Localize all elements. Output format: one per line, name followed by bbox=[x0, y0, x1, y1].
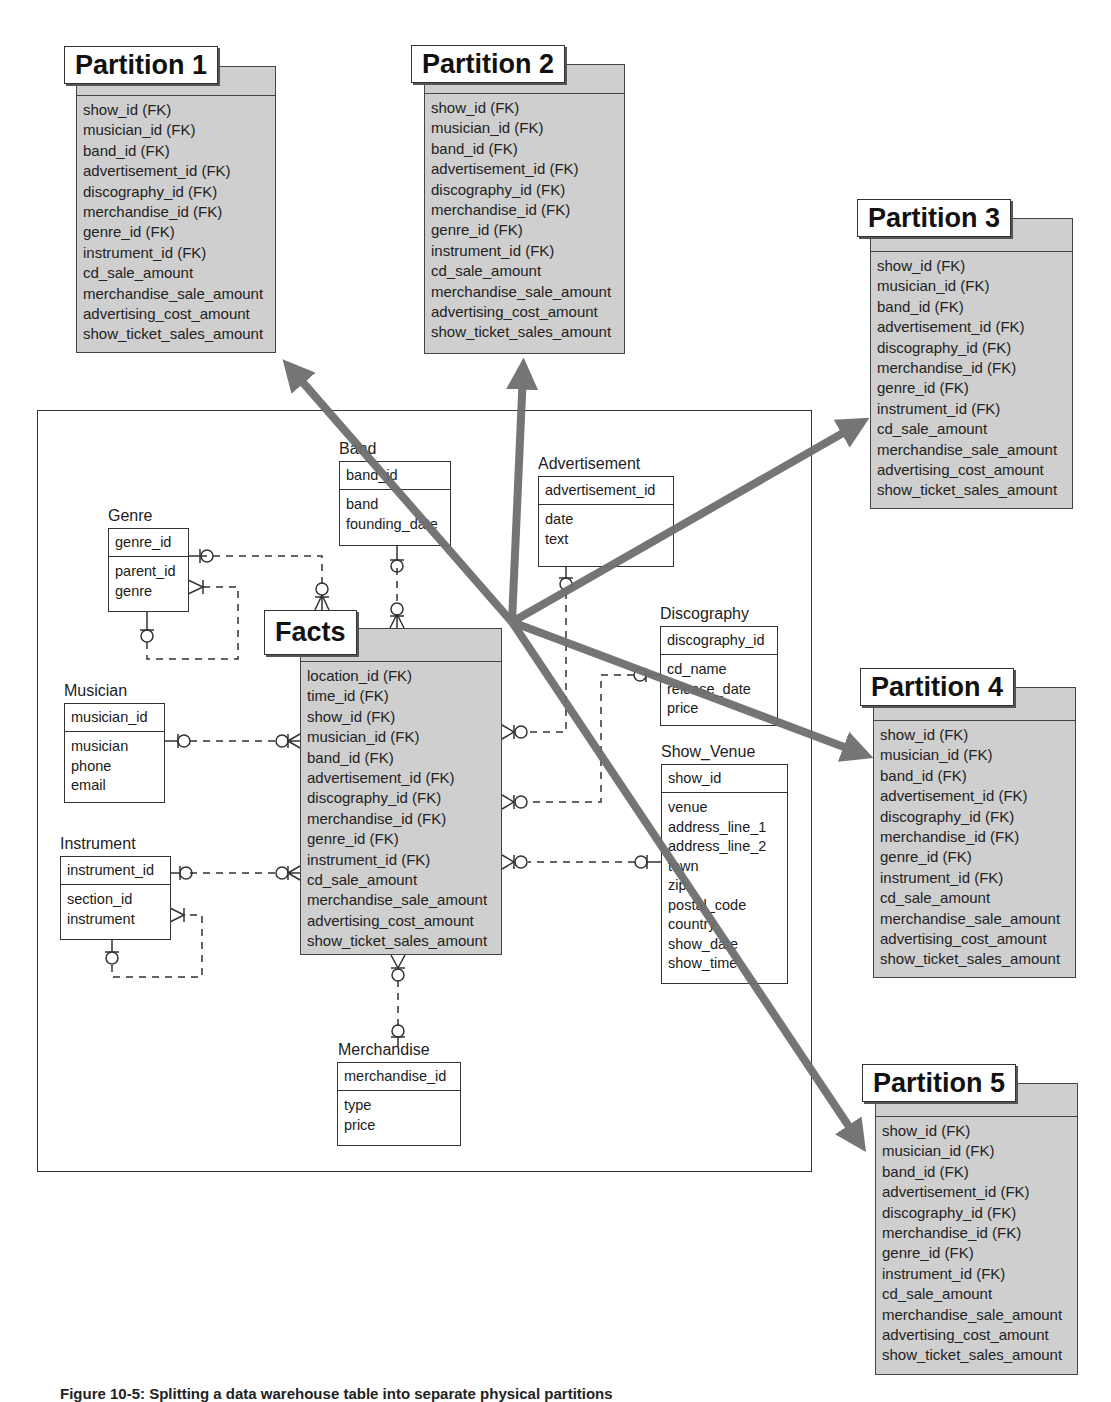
partition-field: genre_id (FK) bbox=[83, 222, 275, 242]
partition-field: merchandise_sale_amount bbox=[882, 1305, 1077, 1325]
partition-2-title: Partition 2 bbox=[411, 45, 565, 83]
partition-3-title: Partition 3 bbox=[857, 199, 1011, 237]
partition-5-table: show_id (FK) musician_id (FK) band_id (F… bbox=[875, 1083, 1078, 1375]
partition-field: musician_id (FK) bbox=[880, 745, 1075, 765]
partition-field: cd_sale_amount bbox=[882, 1284, 1077, 1304]
partition-field: instrument_id (FK) bbox=[431, 241, 624, 261]
instrument-entity-name: Instrument bbox=[60, 835, 136, 853]
partition-field: show_id (FK) bbox=[431, 98, 624, 118]
partition-field: show_ticket_sales_amount bbox=[431, 322, 624, 342]
partition-field: show_ticket_sales_amount bbox=[880, 949, 1075, 969]
partition-3-fields: show_id (FK) musician_id (FK) band_id (F… bbox=[871, 252, 1072, 501]
partition-field: show_ticket_sales_amount bbox=[877, 480, 1072, 500]
discography-attributes: cd_name release_date price bbox=[661, 655, 777, 723]
facts-field: location_id (FK) bbox=[307, 666, 501, 686]
partition-field: merchandise_id (FK) bbox=[882, 1223, 1077, 1243]
partition-field: instrument_id (FK) bbox=[882, 1264, 1077, 1284]
show-venue-attr: postal_code bbox=[668, 896, 781, 916]
partition-field: advertisement_id (FK) bbox=[877, 317, 1072, 337]
facts-field: merchandise_sale_amount bbox=[307, 890, 501, 910]
partition-field: merchandise_sale_amount bbox=[877, 440, 1072, 460]
show-venue-attr: zip bbox=[668, 876, 781, 896]
discography-key: discography_id bbox=[661, 627, 777, 655]
partition-field: band_id (FK) bbox=[877, 297, 1072, 317]
partition-field: merchandise_sale_amount bbox=[431, 282, 624, 302]
instrument-attributes: section_id instrument bbox=[61, 885, 170, 933]
show-venue-entity: show_id venue address_line_1 address_lin… bbox=[661, 764, 788, 984]
partition-2-fields: show_id (FK) musician_id (FK) band_id (F… bbox=[425, 94, 624, 343]
show-venue-attributes: venue address_line_1 address_line_2 town… bbox=[662, 793, 787, 978]
discography-attr: price bbox=[667, 699, 771, 719]
genre-entity-name: Genre bbox=[108, 507, 152, 525]
partition-field: merchandise_id (FK) bbox=[431, 200, 624, 220]
partition-field: merchandise_id (FK) bbox=[83, 202, 275, 222]
partition-field: instrument_id (FK) bbox=[880, 868, 1075, 888]
partition-field: discography_id (FK) bbox=[880, 807, 1075, 827]
musician-attr: phone bbox=[71, 757, 158, 777]
musician-attributes: musician phone email bbox=[65, 732, 164, 800]
partition-field: band_id (FK) bbox=[882, 1162, 1077, 1182]
facts-field: advertising_cost_amount bbox=[307, 911, 501, 931]
partition-field: advertisement_id (FK) bbox=[431, 159, 624, 179]
show-venue-attr: address_line_2 bbox=[668, 837, 781, 857]
facts-title: Facts bbox=[264, 610, 357, 655]
partition-2-table: show_id (FK) musician_id (FK) band_id (F… bbox=[424, 64, 625, 354]
merchandise-attr: price bbox=[344, 1116, 454, 1136]
facts-field: show_ticket_sales_amount bbox=[307, 931, 501, 951]
partition-field: musician_id (FK) bbox=[431, 118, 624, 138]
partition-3-table: show_id (FK) musician_id (FK) band_id (F… bbox=[870, 218, 1073, 509]
partition-field: merchandise_id (FK) bbox=[877, 358, 1072, 378]
merchandise-entity-name: Merchandise bbox=[338, 1041, 430, 1059]
partition-5-title: Partition 5 bbox=[862, 1064, 1016, 1102]
facts-field: merchandise_id (FK) bbox=[307, 809, 501, 829]
partition-field: cd_sale_amount bbox=[83, 263, 275, 283]
musician-attr: musician bbox=[71, 737, 158, 757]
partition-field: discography_id (FK) bbox=[83, 182, 275, 202]
facts-field: musician_id (FK) bbox=[307, 727, 501, 747]
advertisement-attributes: date text bbox=[539, 505, 673, 553]
partition-field: discography_id (FK) bbox=[882, 1203, 1077, 1223]
show-venue-attr: show_date bbox=[668, 935, 781, 955]
partition-field: show_id (FK) bbox=[880, 725, 1075, 745]
figure-caption: Figure 10-5: Splitting a data warehouse … bbox=[60, 1385, 613, 1402]
merchandise-entity: merchandise_id type price bbox=[337, 1062, 461, 1146]
band-key: band_id bbox=[340, 462, 450, 490]
partition-field: advertising_cost_amount bbox=[882, 1325, 1077, 1345]
show-venue-entity-name: Show_Venue bbox=[661, 743, 755, 761]
partition-field: merchandise_id (FK) bbox=[880, 827, 1075, 847]
partition-field: merchandise_sale_amount bbox=[880, 909, 1075, 929]
partition-field: band_id (FK) bbox=[880, 766, 1075, 786]
discography-attr: cd_name bbox=[667, 660, 771, 680]
advertisement-attr: text bbox=[545, 530, 667, 550]
advertisement-entity: advertisement_id date text bbox=[538, 476, 674, 567]
genre-attr: parent_id bbox=[115, 562, 182, 582]
partition-field: show_ticket_sales_amount bbox=[83, 324, 275, 344]
musician-entity-name: Musician bbox=[64, 682, 127, 700]
partition-field: band_id (FK) bbox=[431, 139, 624, 159]
show-venue-attr: venue bbox=[668, 798, 781, 818]
merchandise-attr: type bbox=[344, 1096, 454, 1116]
advertisement-entity-name: Advertisement bbox=[538, 455, 640, 473]
partition-field: advertising_cost_amount bbox=[877, 460, 1072, 480]
facts-field: band_id (FK) bbox=[307, 748, 501, 768]
advertisement-attr: date bbox=[545, 510, 667, 530]
partition-field: instrument_id (FK) bbox=[83, 243, 275, 263]
partition-1-fields: show_id (FK) musician_id (FK) band_id (F… bbox=[77, 96, 275, 345]
discography-attr: release_date bbox=[667, 680, 771, 700]
facts-field: advertisement_id (FK) bbox=[307, 768, 501, 788]
show-venue-attr: country bbox=[668, 915, 781, 935]
partition-field: show_id (FK) bbox=[882, 1121, 1077, 1141]
band-attr: founding_date bbox=[346, 515, 444, 535]
partition-field: advertising_cost_amount bbox=[880, 929, 1075, 949]
partition-5-fields: show_id (FK) musician_id (FK) band_id (F… bbox=[876, 1117, 1077, 1366]
partition-1-title: Partition 1 bbox=[64, 46, 218, 84]
merchandise-key: merchandise_id bbox=[338, 1063, 460, 1091]
facts-field: discography_id (FK) bbox=[307, 788, 501, 808]
instrument-attr: instrument bbox=[67, 910, 164, 930]
partition-field: musician_id (FK) bbox=[882, 1141, 1077, 1161]
partition-field: genre_id (FK) bbox=[877, 378, 1072, 398]
facts-fields: location_id (FK) time_id (FK) show_id (F… bbox=[301, 662, 501, 952]
merchandise-attributes: type price bbox=[338, 1091, 460, 1139]
band-entity: band_id band founding_date bbox=[339, 461, 451, 546]
partition-field: show_id (FK) bbox=[83, 100, 275, 120]
